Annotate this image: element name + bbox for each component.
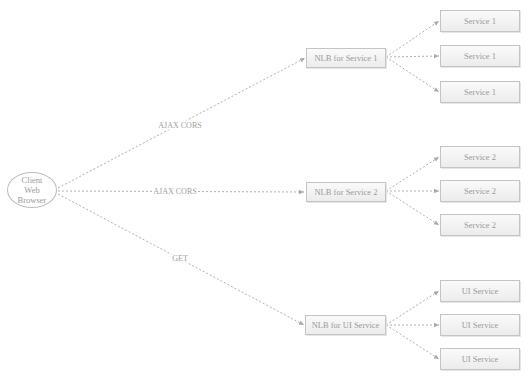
edge-label-ajax-cors-2: AJAX CORS — [152, 187, 197, 196]
edge-label-ajax-cors-1: AJAX CORS — [157, 121, 202, 130]
service-label: Service 1 — [464, 16, 496, 26]
service-label: UI Service — [462, 286, 499, 296]
nlb-label: NLB for Service 2 — [314, 187, 377, 197]
nlb-service-2-node: NLB for Service 2 — [306, 182, 386, 202]
client-label-line: Web — [24, 185, 39, 195]
nlb-service-1-node: NLB for Service 1 — [306, 48, 386, 68]
service-1-instance-node: Service 1 — [440, 81, 520, 103]
client-label-line: Client — [22, 175, 43, 185]
service-2-instance-node: Service 2 — [440, 180, 520, 202]
ui-service-instance-node: UI Service — [440, 314, 520, 336]
service-label: Service 1 — [464, 51, 496, 61]
client-web-browser-node: Client Web Browser — [7, 172, 57, 208]
client-label-line: Browser — [18, 195, 47, 205]
service-2-instance-node: Service 2 — [440, 146, 520, 168]
ui-service-instance-node: UI Service — [440, 348, 520, 370]
service-label: Service 2 — [464, 152, 496, 162]
nlb-label: NLB for Service 1 — [314, 53, 377, 63]
edge-label-get: GET — [171, 254, 189, 263]
ui-service-instance-node: UI Service — [440, 280, 520, 302]
service-1-instance-node: Service 1 — [440, 10, 520, 32]
service-label: Service 1 — [464, 87, 496, 97]
service-1-instance-node: Service 1 — [440, 45, 520, 67]
service-label: Service 2 — [464, 186, 496, 196]
service-2-instance-node: Service 2 — [440, 214, 520, 236]
service-label: UI Service — [462, 354, 499, 364]
nlb-label: NLB for UI Service — [312, 320, 380, 330]
service-label: UI Service — [462, 320, 499, 330]
nlb-ui-service-node: NLB for UI Service — [305, 315, 386, 335]
service-label: Service 2 — [464, 220, 496, 230]
